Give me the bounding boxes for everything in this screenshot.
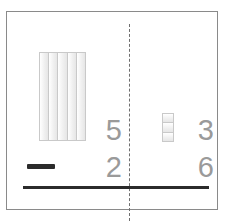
tens-rod-strip [58, 53, 67, 140]
unit-cubes-block [162, 113, 174, 142]
tens-rod-block [39, 52, 86, 141]
answer-rule [23, 186, 209, 189]
subtrahend-tens-digit: 2 [96, 153, 122, 182]
subtrahend-ones-digit: 6 [188, 153, 214, 182]
unit-cube [163, 123, 173, 132]
unit-cube [163, 114, 173, 123]
unit-cube [163, 133, 173, 141]
base-ten-subtraction-worksheet: 5 3 2 6 [0, 0, 226, 218]
minus-operator-icon [27, 164, 55, 169]
tens-rod-strip [77, 53, 85, 140]
tens-rod-strip [40, 53, 49, 140]
minuend-ones-digit: 3 [188, 116, 214, 145]
minuend-tens-digit: 5 [96, 116, 122, 145]
worksheet-frame: 5 3 2 6 [6, 11, 218, 210]
tens-rod-strip [68, 53, 77, 140]
tens-rod-strip [49, 53, 58, 140]
